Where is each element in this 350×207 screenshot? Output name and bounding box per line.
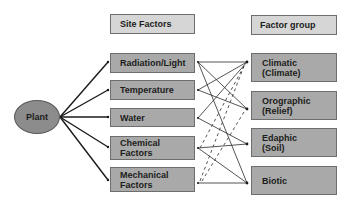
site-factor-label: Radiation/Light: [120, 58, 186, 68]
factor-group-label-line1: Climatic: [262, 58, 301, 68]
site-factor-temperature: Temperature: [110, 80, 195, 100]
site-factor-label-line1: Mechanical: [120, 170, 169, 180]
factor-group-orographic: Orographic (Relief): [251, 91, 337, 120]
site-factor-mechanical: Mechanical Factors: [110, 167, 195, 192]
factor-group-climatic: Climatic (Climate): [251, 53, 337, 82]
site-factor-label: Water: [120, 113, 145, 123]
factor-group-label-line2: (Climate): [262, 68, 301, 78]
site-factors-header-label: Site Factors: [120, 19, 172, 29]
site-factor-label-line2: Factors: [120, 148, 160, 158]
factor-group-label-line1: Edaphic: [262, 133, 297, 143]
site-factor-water: Water: [110, 108, 195, 127]
site-factor-chemical: Chemical Factors: [110, 136, 195, 160]
site-factors-header: Site Factors: [110, 14, 195, 34]
plant-to-site-lines: [60, 62, 108, 180]
factor-group-label-line2: (Relief): [262, 106, 311, 116]
site-factor-label-line2: Factors: [120, 180, 169, 190]
plant-label: Plant: [26, 112, 48, 122]
site-factor-label-line1: Chemical: [120, 138, 160, 148]
factor-group-label-line2: (Soil): [262, 143, 297, 153]
factor-group-edaphic: Edaphic (Soil): [251, 128, 337, 157]
factor-group-label: Biotic: [262, 176, 287, 186]
factor-group-biotic: Biotic: [251, 166, 337, 195]
plant-node: Plant: [14, 100, 60, 134]
site-factor-radiation: Radiation/Light: [110, 53, 195, 73]
factor-group-header: Factor group: [251, 15, 337, 35]
factor-group-header-label: Factor group: [260, 20, 316, 30]
factor-group-label-line1: Orographic: [262, 96, 311, 106]
site-factor-label: Temperature: [120, 85, 174, 95]
